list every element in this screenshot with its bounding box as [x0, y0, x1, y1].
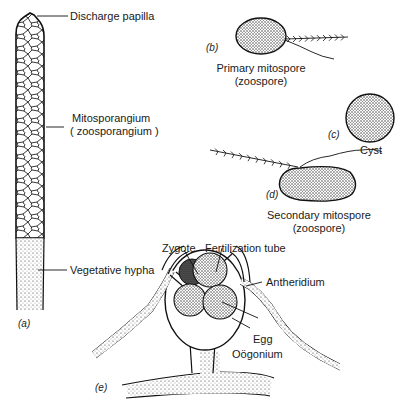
- panel-tag-d: (d): [266, 189, 278, 200]
- panel-c-cyst: [346, 94, 394, 142]
- diagram-canvas: [0, 0, 402, 406]
- label-secondary-mitospore: Secondary mitospore: [266, 209, 372, 221]
- label-zoosporangium: ( zoosporangium ): [70, 125, 159, 137]
- panel-tag-e: (e): [95, 382, 107, 393]
- label-egg: Egg: [253, 333, 273, 345]
- panel-tag-a: (a): [18, 318, 30, 329]
- label-primary-zoospore: (zoospore): [212, 75, 310, 87]
- label-discharge-papilla: Discharge papilla: [70, 10, 154, 22]
- label-zygote: Zygote: [162, 242, 196, 254]
- label-cyst: Cyst: [360, 144, 382, 156]
- panel-tag-b: (b): [206, 42, 218, 53]
- label-oogonium: Oögonium: [232, 348, 283, 360]
- label-secondary-zoospore: (zoospore): [266, 222, 372, 234]
- panel-tag-c: (c): [328, 129, 340, 140]
- label-mitosporangium: Mitosporangium: [72, 112, 150, 124]
- label-antheridium: Antheridium: [266, 276, 325, 288]
- label-fertilization-tube: Fertilization tube: [205, 242, 286, 254]
- label-vegetative-hypha: Vegetative hypha: [70, 264, 154, 276]
- panel-d-secondary-zoospore: [210, 149, 382, 202]
- panel-a-mitosporangium: [16, 13, 68, 310]
- label-primary-mitospore: Primary mitospore: [212, 62, 310, 74]
- panel-b-primary-zoospore: [236, 18, 348, 59]
